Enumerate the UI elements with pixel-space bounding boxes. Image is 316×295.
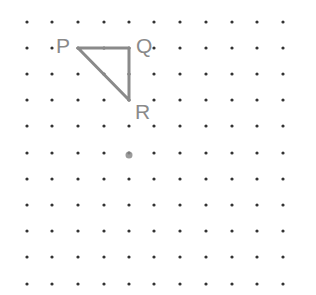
grid-dot bbox=[25, 282, 28, 285]
grid-dot bbox=[255, 124, 258, 127]
grid-dot bbox=[178, 72, 181, 75]
grid-dot bbox=[76, 72, 79, 75]
grid-dot bbox=[204, 98, 207, 101]
grid-dot bbox=[50, 124, 53, 127]
grid-dot bbox=[152, 46, 155, 49]
highlighted-point[interactable] bbox=[126, 152, 133, 159]
grid-dot bbox=[102, 203, 105, 206]
grid-dot bbox=[281, 229, 284, 232]
grid-dot bbox=[255, 282, 258, 285]
grid-dot bbox=[204, 255, 207, 258]
grid-dot bbox=[127, 255, 130, 258]
vertex-label-q: Q bbox=[136, 34, 152, 57]
grid-dot bbox=[152, 255, 155, 258]
grid-dot bbox=[204, 46, 207, 49]
vertex-label-r: R bbox=[135, 100, 150, 123]
grid-dot bbox=[255, 20, 258, 23]
grid-dot bbox=[255, 151, 258, 154]
grid-dot bbox=[152, 229, 155, 232]
grid-dot bbox=[204, 282, 207, 285]
grid-dot bbox=[76, 229, 79, 232]
grid-dot bbox=[255, 229, 258, 232]
grid-dot bbox=[230, 177, 233, 180]
grid-dot bbox=[50, 255, 53, 258]
grid-dot bbox=[127, 124, 130, 127]
grid-dot bbox=[50, 282, 53, 285]
grid-dot bbox=[25, 255, 28, 258]
grid-dot bbox=[76, 20, 79, 23]
grid-dot bbox=[102, 98, 105, 101]
grid-dot bbox=[152, 20, 155, 23]
triangle-shape bbox=[78, 48, 129, 100]
triangle-pqr bbox=[78, 48, 129, 100]
grid-dot bbox=[76, 255, 79, 258]
grid-dot bbox=[204, 229, 207, 232]
grid-dot bbox=[102, 255, 105, 258]
grid-dot bbox=[281, 282, 284, 285]
grid-dot bbox=[102, 151, 105, 154]
dot-grid-diagram: P Q R bbox=[0, 0, 316, 295]
vertex-label-p: P bbox=[56, 34, 70, 57]
grid-dot bbox=[50, 20, 53, 23]
grid-dot bbox=[230, 282, 233, 285]
grid-dot bbox=[102, 20, 105, 23]
grid-dot bbox=[25, 151, 28, 154]
grid-dot bbox=[255, 72, 258, 75]
grid-dot bbox=[50, 229, 53, 232]
grid-dot bbox=[25, 98, 28, 101]
grid-dot bbox=[152, 151, 155, 154]
grid-dot bbox=[281, 98, 284, 101]
grid-dot bbox=[127, 229, 130, 232]
grid-dot bbox=[25, 72, 28, 75]
grid-dot bbox=[230, 124, 233, 127]
grid-dot bbox=[102, 282, 105, 285]
grid-dot bbox=[50, 46, 53, 49]
grid-dot bbox=[178, 20, 181, 23]
grid-dot bbox=[178, 98, 181, 101]
grid-dot bbox=[25, 229, 28, 232]
grid-dot bbox=[230, 255, 233, 258]
grid-dot bbox=[25, 203, 28, 206]
grid-dot bbox=[204, 177, 207, 180]
grid-dot bbox=[204, 151, 207, 154]
grid-dot bbox=[76, 282, 79, 285]
grid-dot bbox=[152, 124, 155, 127]
grid-dot bbox=[76, 151, 79, 154]
grid-dot bbox=[178, 46, 181, 49]
grid-dot bbox=[281, 20, 284, 23]
grid-dot bbox=[178, 177, 181, 180]
grid-dot bbox=[281, 177, 284, 180]
grid-dots bbox=[25, 20, 284, 285]
grid-dot bbox=[230, 98, 233, 101]
grid-dot bbox=[178, 282, 181, 285]
grid-dot bbox=[230, 229, 233, 232]
grid-dot bbox=[255, 98, 258, 101]
grid-dot bbox=[230, 72, 233, 75]
grid-dot bbox=[204, 72, 207, 75]
grid-dot bbox=[204, 20, 207, 23]
grid-dot bbox=[230, 46, 233, 49]
grid-dot bbox=[152, 72, 155, 75]
grid-dot bbox=[50, 98, 53, 101]
grid-dot bbox=[127, 177, 130, 180]
grid-dot bbox=[76, 98, 79, 101]
grid-dot bbox=[50, 151, 53, 154]
grid-dot bbox=[204, 203, 207, 206]
grid-dot bbox=[76, 124, 79, 127]
grid-dot bbox=[178, 151, 181, 154]
grid-dot bbox=[281, 151, 284, 154]
grid-dot bbox=[76, 177, 79, 180]
grid-dot bbox=[281, 72, 284, 75]
grid-dot bbox=[230, 151, 233, 154]
grid-dot bbox=[255, 177, 258, 180]
grid-dot bbox=[127, 203, 130, 206]
grid-dot bbox=[127, 282, 130, 285]
grid-dot bbox=[50, 72, 53, 75]
grid-dot bbox=[25, 46, 28, 49]
grid-dot bbox=[178, 255, 181, 258]
grid-dot bbox=[178, 203, 181, 206]
grid-dot bbox=[178, 124, 181, 127]
grid-dot bbox=[281, 124, 284, 127]
grid-dot bbox=[281, 255, 284, 258]
grid-dot bbox=[178, 229, 181, 232]
